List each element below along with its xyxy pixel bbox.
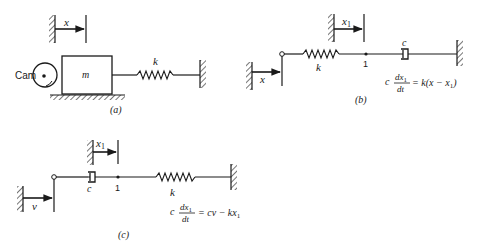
spring-k-b (303, 50, 339, 58)
displacement-indicator-x-b: x (246, 56, 282, 90)
label-mass: m (82, 69, 89, 80)
svg-text:dx1: dx1 (395, 72, 408, 84)
spring-k-c (156, 173, 195, 181)
caption-a: (a) (110, 104, 122, 116)
svg-text:= k(x − x1): = k(x − x1) (412, 77, 457, 90)
wall-right-c (231, 164, 237, 190)
label-node-1-c: 1 (115, 183, 120, 193)
ground-hatch (50, 95, 125, 100)
label-damper-c-c: c (87, 183, 92, 194)
caption-b: (b) (355, 94, 367, 106)
input-terminal-c (52, 175, 57, 180)
figure-a: x Cam m k (a) (15, 15, 206, 116)
label-spring-k-a: k (153, 55, 159, 67)
displacement-indicator-x: x (49, 15, 86, 43)
label-v-c: v (32, 200, 37, 212)
label-x-b: x (259, 73, 265, 85)
label-node-1-b: 1 (363, 59, 368, 69)
wall-right-a (200, 60, 206, 88)
figure-c: x1 v c 1 k (17, 137, 241, 241)
damper-c-c (88, 172, 95, 182)
wall-right-b (457, 40, 463, 66)
velocity-indicator-v-c: v (17, 178, 54, 212)
svg-text:dt: dt (397, 84, 405, 94)
node-1-b (364, 52, 367, 55)
label-damper-c-b: c (402, 37, 407, 48)
node-1-c (116, 175, 119, 178)
input-terminal-b (280, 52, 285, 57)
svg-text:c: c (385, 76, 390, 87)
displacement-indicator-x1-c: x1 (87, 137, 118, 165)
label-cam: Cam (15, 70, 36, 81)
equation-b: c dx1 dt = k(x − x1) (385, 72, 457, 94)
svg-text:dt: dt (182, 214, 190, 224)
label-x1-c: x1 (95, 137, 105, 151)
svg-text:dx1: dx1 (180, 202, 193, 214)
cam-icon (33, 63, 57, 87)
label-spring-k-c: k (170, 186, 176, 198)
caption-c: (c) (118, 229, 130, 241)
label-x1-b: x1 (341, 15, 351, 29)
equation-c: c dx1 dt = cv − kx1 (170, 202, 241, 224)
svg-text:c: c (170, 206, 175, 217)
displacement-indicator-x1-b: x1 (328, 14, 364, 42)
label-spring-k-b: k (316, 61, 322, 73)
figure-b: x1 x k 1 c (246, 14, 463, 106)
label-x: x (63, 16, 69, 28)
svg-text:= cv − kx1: = cv − kx1 (198, 207, 241, 220)
spring-k-a (137, 71, 173, 79)
damper-c-b (401, 49, 457, 59)
